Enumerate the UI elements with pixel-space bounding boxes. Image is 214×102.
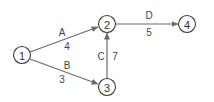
node-3-label: 3 <box>104 82 110 94</box>
edge-b-weight: 3 <box>59 74 65 85</box>
edge-c-weight: 7 <box>112 51 118 62</box>
node-3: 3 <box>99 79 116 96</box>
edge-a-name: A <box>59 27 66 38</box>
edge-b-name: B <box>64 60 71 71</box>
edge-d: D 5 <box>116 10 178 38</box>
edge-c-name: C <box>97 51 104 62</box>
edge-a: A 4 <box>30 27 98 53</box>
node-4-label: 4 <box>184 19 190 31</box>
edge-b: B 3 <box>30 59 98 85</box>
node-1-label: 1 <box>19 50 25 62</box>
edge-c: C 7 <box>97 33 118 78</box>
node-2: 2 <box>99 16 116 33</box>
node-1: 1 <box>14 47 31 64</box>
edge-a-weight: 4 <box>64 41 70 52</box>
node-2-label: 2 <box>104 19 110 31</box>
node-4: 4 <box>179 16 196 33</box>
edge-d-name: D <box>145 10 152 21</box>
network-diagram: A 4 B 3 C 7 D 5 1 2 3 4 <box>0 0 214 102</box>
edge-d-weight: 5 <box>146 27 152 38</box>
